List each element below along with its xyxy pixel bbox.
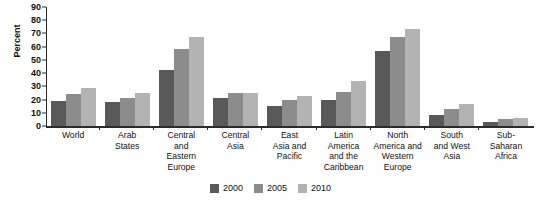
bar[interactable]: [444, 109, 459, 126]
bar-group: [371, 7, 425, 126]
bar-group: [317, 7, 371, 126]
legend-swatch-icon: [210, 184, 219, 193]
bar[interactable]: [405, 29, 420, 126]
bar[interactable]: [429, 115, 444, 126]
bar[interactable]: [297, 96, 312, 126]
bar[interactable]: [213, 98, 228, 126]
legend-label: 2000: [223, 183, 243, 193]
bar-group: [479, 7, 533, 126]
bar-set: [425, 7, 479, 126]
legend-item[interactable]: 2010: [298, 183, 331, 193]
legend-label: 2010: [311, 183, 331, 193]
bar-set: [154, 7, 208, 126]
y-axis-title: Percent: [12, 6, 22, 76]
x-axis-line: [46, 126, 534, 128]
bar[interactable]: [459, 104, 474, 126]
bar-set: [46, 7, 100, 126]
legend-swatch-icon: [254, 184, 263, 193]
x-axis-label: CentralandEasternEurope: [154, 130, 208, 172]
bar[interactable]: [189, 37, 204, 126]
bar[interactable]: [483, 122, 498, 126]
bar-set: [262, 7, 316, 126]
bar[interactable]: [267, 106, 282, 126]
bar[interactable]: [174, 49, 189, 126]
bar[interactable]: [336, 92, 351, 126]
bar[interactable]: [513, 118, 528, 126]
plot-area: 0102030405060708090: [46, 7, 533, 126]
bar[interactable]: [375, 51, 390, 126]
bar[interactable]: [66, 94, 81, 126]
bar-group: [46, 7, 100, 126]
bar-group: [262, 7, 316, 126]
legend-swatch-icon: [298, 184, 307, 193]
bar[interactable]: [51, 101, 66, 126]
bar[interactable]: [228, 93, 243, 126]
x-axis-label: CentralAsia: [208, 130, 262, 172]
bar-set: [317, 7, 371, 126]
bar[interactable]: [321, 100, 336, 126]
bar[interactable]: [159, 70, 174, 126]
bar-group: [154, 7, 208, 126]
bar[interactable]: [243, 93, 258, 126]
bar-group: [100, 7, 154, 126]
x-axis-label: EastAsia andPacific: [262, 130, 316, 172]
bar-groups: [46, 7, 533, 126]
bar-group: [425, 7, 479, 126]
x-axis-label: NorthAmerica andWesternEurope: [371, 130, 425, 172]
legend-label: 2005: [267, 183, 287, 193]
x-axis-label: World: [46, 130, 100, 172]
chart-legend: 200020052010: [0, 183, 541, 193]
bar-set: [100, 7, 154, 126]
bar[interactable]: [135, 93, 150, 126]
bar[interactable]: [351, 81, 366, 126]
legend-item[interactable]: 2005: [254, 183, 287, 193]
x-axis-label: Southand WestAsia: [425, 130, 479, 172]
bar[interactable]: [105, 102, 120, 126]
bar[interactable]: [498, 119, 513, 126]
chart-container: Percent 0102030405060708090 WorldArabSta…: [0, 0, 541, 203]
legend-item[interactable]: 2000: [210, 183, 243, 193]
bar[interactable]: [282, 100, 297, 126]
bar[interactable]: [81, 88, 96, 126]
bar[interactable]: [120, 98, 135, 126]
bar-set: [371, 7, 425, 126]
bar-group: [208, 7, 262, 126]
x-axis-label: Sub-SaharanAfrica: [479, 130, 533, 172]
bar-set: [208, 7, 262, 126]
bar[interactable]: [390, 37, 405, 126]
x-axis-label: ArabStates: [100, 130, 154, 172]
x-axis-labels: WorldArabStatesCentralandEasternEuropeCe…: [46, 130, 533, 172]
bar-set: [479, 7, 533, 126]
x-axis-label: LatinAmericaand theCaribbean: [317, 130, 371, 172]
